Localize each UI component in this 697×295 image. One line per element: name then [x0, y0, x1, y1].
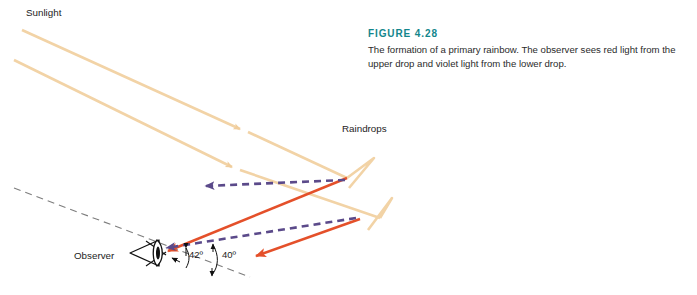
angle-annotation-group: 42º 40º — [172, 244, 237, 276]
sunlight-label: Sunlight — [26, 7, 62, 18]
observer-label: Observer — [74, 250, 115, 261]
figure-container: 42º 40º Sunlight Raindrops Observer FIGU… — [0, 0, 697, 295]
angle-label-violet: 40º — [222, 249, 237, 260]
observer-eye-icon — [130, 240, 162, 266]
angle-label-red: 42º — [189, 249, 204, 260]
figure-caption: FIGURE 4.28 The formation of a primary r… — [368, 28, 683, 71]
raindrops-label: Raindrops — [342, 123, 387, 134]
eye-pupil — [156, 247, 160, 260]
figure-number: FIGURE 4.28 — [368, 28, 683, 39]
red-ray-upper-drop — [168, 178, 347, 251]
violet-ray-lower-drop — [166, 218, 356, 248]
upper-raindrop-vertex — [347, 158, 374, 188]
sunlight-ray-group — [14, 30, 392, 230]
figure-caption-text: The formation of a primary rainbow. The … — [368, 43, 683, 71]
upper-sunlight-ray-cont — [248, 132, 347, 178]
angle-tick-red-bottom — [172, 258, 180, 262]
